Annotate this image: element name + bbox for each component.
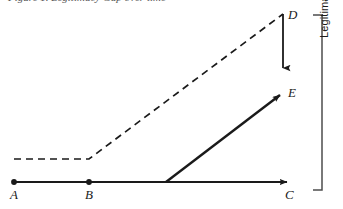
- diagram-canvas: [0, 0, 343, 209]
- expectations-dashed-line: [14, 14, 283, 159]
- legitimacy-gap-figure: Figure 1. Legitimacy Gap over time: [0, 0, 343, 209]
- point-label-b: B: [85, 188, 93, 201]
- performance-solid-line: [166, 95, 280, 182]
- point-label-d: D: [288, 8, 297, 21]
- legitimacy-gap-bracket-label: Legitimacy Gap: [318, 0, 330, 52]
- point-a-marker: [11, 179, 17, 185]
- point-label-e: E: [288, 86, 296, 99]
- point-b-marker: [86, 179, 92, 185]
- point-label-a: A: [10, 188, 18, 201]
- point-label-c: C: [285, 188, 294, 201]
